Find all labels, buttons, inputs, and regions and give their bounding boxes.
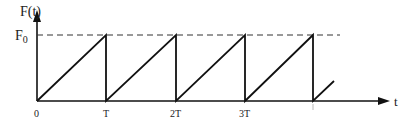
f0-label: F0 [15, 28, 28, 45]
x-tick-3T: 3T [239, 108, 250, 119]
x-tick-0: 0 [34, 108, 39, 119]
x-axis-arrow-icon [378, 97, 390, 105]
y-axis-label: F(t) [20, 4, 41, 20]
sawtooth-series [37, 35, 334, 101]
x-tick-2T: 2T [170, 108, 181, 119]
sawtooth-chart: F(t) F0 t 0 T 2T 3T [0, 0, 408, 122]
x-tick-T: T [103, 108, 109, 119]
x-axis-label: t [394, 94, 398, 109]
